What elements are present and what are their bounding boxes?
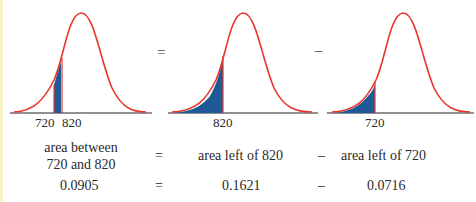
- tick-label-820: 820: [62, 115, 82, 131]
- mid-label: area left of 820: [198, 147, 283, 164]
- tick-label-820: 820: [213, 115, 233, 131]
- minus-sign: –: [315, 42, 323, 59]
- normal-curve: [332, 13, 470, 112]
- lhs-value: 0.0905: [60, 177, 99, 194]
- tick-label-720: 720: [365, 115, 385, 131]
- normal-curve: [14, 13, 146, 112]
- normal-curve: [172, 13, 312, 112]
- lhs-label: area between 720 and 820: [36, 139, 126, 173]
- equals-sign: =: [155, 147, 163, 164]
- tick-label-720: 720: [35, 115, 55, 131]
- panel-left-of-720: [327, 13, 474, 113]
- lhs-line-1: area between: [36, 139, 126, 156]
- shaded-area: [332, 84, 375, 113]
- rhs-value: 0.0716: [367, 177, 406, 194]
- equals-sign: =: [157, 44, 165, 61]
- minus-sign: –: [318, 147, 325, 164]
- panel-between-720-820: [10, 13, 152, 113]
- mid-value: 0.1621: [222, 177, 261, 194]
- rhs-label: area left of 720: [341, 147, 426, 164]
- panel-left-of-820: [168, 13, 318, 113]
- minus-sign: –: [318, 177, 325, 194]
- equals-sign: =: [155, 177, 163, 194]
- lhs-line-2: 720 and 820: [36, 156, 126, 173]
